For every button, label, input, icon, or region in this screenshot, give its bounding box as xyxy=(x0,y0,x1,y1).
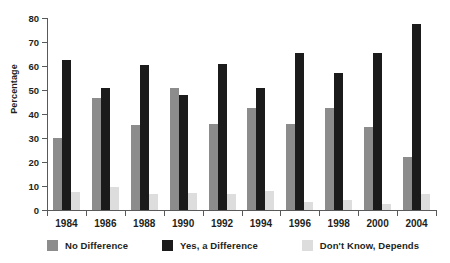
bar-2004-series-1 xyxy=(412,24,421,210)
bar-group: 2004 xyxy=(397,18,436,210)
bar-group-bars xyxy=(319,18,358,210)
bar-1990-series-0 xyxy=(170,88,179,210)
bar-chart: Percentage 01020304050607080 19841986198… xyxy=(0,0,450,263)
x-tick-label: 2004 xyxy=(405,218,427,229)
bar-group-bars xyxy=(47,18,86,210)
x-group-separator xyxy=(319,210,320,216)
x-group-separator xyxy=(242,210,243,216)
bar-1990-series-2 xyxy=(188,193,197,210)
y-tick-label: 70 xyxy=(28,37,39,48)
x-tick-label: 1990 xyxy=(172,218,194,229)
bar-group: 1992 xyxy=(203,18,242,210)
bar-1986-series-0 xyxy=(92,98,101,210)
x-tick-label: 1984 xyxy=(55,218,77,229)
y-tick-label: 60 xyxy=(28,61,39,72)
legend-label-dont-know-depends: Don't Know, Depends xyxy=(320,240,419,251)
x-group-separator xyxy=(358,210,359,216)
bar-group-bars xyxy=(203,18,242,210)
legend-label-no-difference: No Difference xyxy=(65,240,128,251)
bar-group: 1994 xyxy=(242,18,281,210)
bar-1984-series-0 xyxy=(53,138,62,210)
legend-item-no-difference: No Difference xyxy=(47,240,128,251)
bar-1992-series-0 xyxy=(209,124,218,210)
bar-group: 1996 xyxy=(280,18,319,210)
bar-1992-series-1 xyxy=(218,64,227,210)
y-tick-label: 0 xyxy=(34,205,39,216)
bar-group: 2000 xyxy=(358,18,397,210)
bar-group-bars xyxy=(242,18,281,210)
x-group-separator xyxy=(203,210,204,216)
bar-group: 1984 xyxy=(47,18,86,210)
bar-2004-series-0 xyxy=(403,157,412,210)
bar-1998-series-2 xyxy=(343,200,352,210)
bar-group-bars xyxy=(86,18,125,210)
y-tick-label: 80 xyxy=(28,13,39,24)
bar-group-bars xyxy=(125,18,164,210)
y-tick-label: 40 xyxy=(28,109,39,120)
x-group-separator xyxy=(397,210,398,216)
legend-item-dont-know-depends: Don't Know, Depends xyxy=(302,240,419,251)
bar-1988-series-1 xyxy=(140,65,149,210)
bar-1996-series-2 xyxy=(304,202,313,210)
legend-item-yes-a-difference: Yes, a Difference xyxy=(162,240,258,251)
bar-group: 1998 xyxy=(319,18,358,210)
bar-1988-series-0 xyxy=(131,125,140,210)
bar-1986-series-2 xyxy=(110,187,119,210)
y-axis-title: Percentage xyxy=(9,49,19,129)
bar-2000-series-2 xyxy=(382,204,391,210)
x-tick-label: 1988 xyxy=(133,218,155,229)
x-group-separator xyxy=(125,210,126,216)
legend-swatch-icon-no-difference xyxy=(47,240,58,251)
x-tick-label: 1996 xyxy=(289,218,311,229)
x-group-separator xyxy=(164,210,165,216)
bar-group-bars xyxy=(397,18,436,210)
bar-1996-series-1 xyxy=(295,53,304,210)
bar-1988-series-2 xyxy=(149,194,158,210)
legend-swatch-icon-yes-a-difference xyxy=(162,240,173,251)
chart-legend: No Difference Yes, a Difference Don't Kn… xyxy=(47,240,436,251)
plot-area: 01020304050607080 1984198619881990199219… xyxy=(47,18,436,210)
y-tick-label: 10 xyxy=(28,181,39,192)
bar-group-bars xyxy=(164,18,203,210)
y-tick-label: 50 xyxy=(28,85,39,96)
bar-group: 1990 xyxy=(164,18,203,210)
legend-label-yes-a-difference: Yes, a Difference xyxy=(180,240,258,251)
bar-1994-series-2 xyxy=(265,191,274,210)
bar-group-bars xyxy=(280,18,319,210)
x-tick-label: 1986 xyxy=(94,218,116,229)
bar-2000-series-1 xyxy=(373,53,382,210)
y-tick-label: 20 xyxy=(28,157,39,168)
bar-group: 1988 xyxy=(125,18,164,210)
bar-1984-series-2 xyxy=(71,192,80,210)
bar-1994-series-1 xyxy=(256,88,265,210)
bar-2004-series-2 xyxy=(421,194,430,210)
x-tick-label: 1994 xyxy=(250,218,272,229)
bar-2000-series-0 xyxy=(364,127,373,210)
x-group-separator xyxy=(86,210,87,216)
bar-1998-series-0 xyxy=(325,108,334,210)
x-tick-label: 1998 xyxy=(328,218,350,229)
bar-1992-series-2 xyxy=(227,194,236,210)
bar-1984-series-1 xyxy=(62,60,71,210)
x-tick-label: 1992 xyxy=(211,218,233,229)
x-group-separator xyxy=(436,210,437,216)
x-tick-label: 2000 xyxy=(367,218,389,229)
bar-1996-series-0 xyxy=(286,124,295,210)
bar-1994-series-0 xyxy=(247,108,256,210)
bar-1990-series-1 xyxy=(179,95,188,210)
y-tick-label: 30 xyxy=(28,133,39,144)
x-group-separator xyxy=(280,210,281,216)
bar-group-bars xyxy=(358,18,397,210)
x-group-separator xyxy=(47,210,48,216)
bar-1986-series-1 xyxy=(101,88,110,210)
legend-swatch-icon-dont-know-depends xyxy=(302,240,313,251)
bar-1998-series-1 xyxy=(334,73,343,210)
bar-group: 1986 xyxy=(86,18,125,210)
